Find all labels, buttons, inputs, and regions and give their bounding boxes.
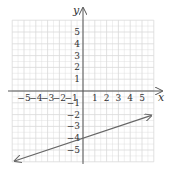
y-tick-label: −1 [67,98,80,108]
y-tick-label: −2 [67,110,80,120]
y-tick-label: 5 [74,27,80,37]
y-tick-label: 3 [74,51,80,61]
y-tick-label: 2 [74,62,80,72]
y-tick-label: −5 [67,145,81,155]
y-tick-label: −3 [67,121,81,131]
coordinate-plane: −5−4−3−2−11234554321−1−2−3−4−5 x y [0,0,172,170]
x-tick-label: 4 [127,93,133,103]
x-tick-label: 1 [92,93,98,103]
y-tick-label: 4 [74,39,80,49]
y-axis-label: y [72,4,80,17]
x-tick-label: 2 [104,93,110,103]
axes [8,8,162,164]
y-tick-label: 1 [74,74,80,84]
x-tick-label: 3 [116,93,122,103]
x-tick-label: 5 [139,93,145,103]
x-axis-label: x [158,91,165,104]
